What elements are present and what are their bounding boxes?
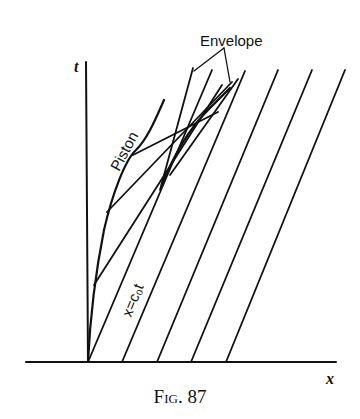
piston-characteristics-diagram: t x Piston x=c₀t Envelope bbox=[0, 0, 360, 419]
characteristic-line-4 bbox=[191, 70, 312, 362]
caption-number: 87 bbox=[187, 386, 206, 407]
figure-caption: Fig. 87 bbox=[0, 386, 360, 408]
characteristic-line-5 bbox=[226, 70, 345, 362]
characteristic-line-2 bbox=[122, 71, 245, 362]
t-axis bbox=[86, 62, 88, 362]
piston-characteristic-5 bbox=[170, 79, 238, 175]
envelope-label: Envelope bbox=[200, 32, 263, 49]
t-axis-label: t bbox=[74, 58, 79, 75]
envelope-leader-2 bbox=[224, 48, 230, 82]
envelope-leader-1 bbox=[194, 48, 224, 71]
caption-prefix: Fig. bbox=[154, 386, 183, 407]
x-axis-label: x bbox=[325, 370, 334, 387]
characteristic-line-3 bbox=[157, 70, 278, 362]
